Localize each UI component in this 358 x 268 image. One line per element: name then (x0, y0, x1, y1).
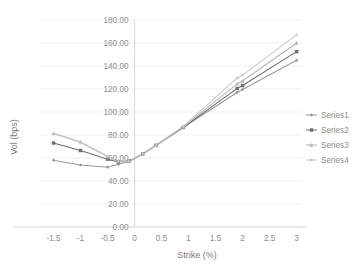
x-tick-label: 2 (240, 234, 245, 243)
series-line-series4 (54, 35, 297, 162)
series-markers (52, 33, 299, 169)
gridlines (40, 20, 302, 227)
legend-item-series1[interactable]: Series1 (306, 111, 349, 120)
legend-marker (310, 158, 313, 161)
x-tick-label: -1 (77, 234, 85, 243)
data-point-marker (106, 166, 109, 169)
legend-item-series2[interactable]: Series2 (306, 126, 349, 135)
x-tick-label: 1.5 (210, 234, 222, 243)
series-paths (54, 35, 297, 167)
x-tick-label: 2.5 (264, 234, 276, 243)
y-axis-tick-labels: 0.0020.0040.0060.0080.00100.00120.00140.… (103, 16, 128, 232)
y-axis-title: Vol (bps) (9, 119, 19, 155)
x-tick-label: 0.5 (156, 234, 168, 243)
data-point-marker (79, 163, 82, 166)
chart-container: 0.0020.0040.0060.0080.00100.00120.00140.… (0, 0, 358, 268)
legend-item-series3[interactable]: Series3 (306, 141, 349, 150)
data-point-marker (241, 84, 244, 87)
legend-label: Series3 (321, 141, 349, 150)
x-axis-title: Strike (%) (177, 250, 217, 260)
legend-label: Series4 (321, 156, 349, 165)
legend[interactable]: Series1Series2Series3Series4 (306, 111, 349, 165)
x-tick-label: 0 (132, 234, 137, 243)
data-point-marker (52, 159, 55, 162)
data-point-marker (79, 149, 82, 152)
x-tick-label: -0.5 (100, 234, 115, 243)
legend-marker (310, 113, 313, 116)
data-point-marker (295, 50, 298, 53)
x-tick-label: 1 (186, 234, 191, 243)
legend-label: Series1 (321, 111, 349, 120)
series-line-series3 (54, 43, 297, 161)
legend-item-series4[interactable]: Series4 (306, 156, 349, 165)
series-line-series1 (54, 60, 297, 167)
y-tick-label: 160.00 (103, 39, 128, 48)
x-tick-label: -1.5 (46, 234, 61, 243)
y-tick-label: 20.00 (108, 200, 129, 209)
x-axis-tick-labels: -1.5-1-0.500.511.522.53 (46, 234, 299, 243)
line-chart: 0.0020.0040.0060.0080.00100.00120.00140.… (0, 0, 358, 268)
y-tick-label: 80.00 (108, 131, 129, 140)
legend-marker (310, 128, 313, 131)
x-tick-label: 3 (294, 234, 299, 243)
data-point-marker (235, 87, 238, 90)
axes (14, 20, 306, 227)
y-tick-label: 100.00 (103, 108, 128, 117)
y-tick-label: 120.00 (103, 85, 128, 94)
y-tick-label: 0.00 (113, 223, 129, 232)
y-tick-label: 40.00 (108, 177, 129, 186)
y-tick-label: 180.00 (103, 16, 128, 25)
y-tick-label: 140.00 (103, 62, 128, 71)
data-point-marker (52, 141, 55, 144)
legend-label: Series2 (321, 126, 349, 135)
